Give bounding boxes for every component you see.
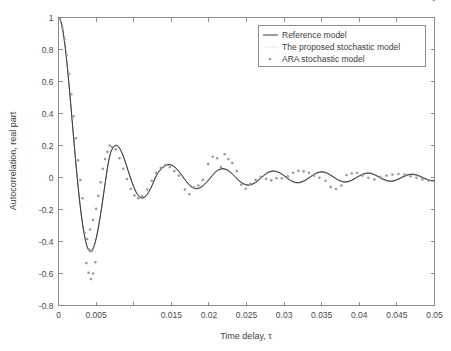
y-tick-label: 0.8 xyxy=(42,45,54,55)
data-point xyxy=(95,207,98,210)
data-point xyxy=(90,278,93,281)
data-point xyxy=(391,173,394,176)
data-point xyxy=(97,195,100,198)
data-point xyxy=(65,54,68,57)
y-tick-label: 1 xyxy=(49,13,54,23)
data-point xyxy=(231,162,234,165)
data-point xyxy=(281,177,284,180)
data-point xyxy=(141,195,144,198)
data-point xyxy=(184,188,187,191)
data-point xyxy=(85,262,88,265)
data-point xyxy=(70,93,73,96)
data-point xyxy=(292,171,295,174)
data-point xyxy=(178,174,181,177)
data-point xyxy=(270,179,273,182)
x-tick-label: 0.02 xyxy=(201,310,218,320)
data-point xyxy=(324,179,327,182)
data-point xyxy=(367,177,370,180)
data-point xyxy=(146,188,149,191)
data-point xyxy=(84,231,87,234)
data-point xyxy=(94,261,97,264)
data-point xyxy=(108,144,111,147)
legend-label-proposed-stochastic-model: The proposed stochastic model xyxy=(282,42,400,52)
y-tick-label: 0 xyxy=(49,173,54,183)
data-point xyxy=(150,179,153,182)
y-tick-label: -0.2 xyxy=(39,205,54,215)
data-point xyxy=(169,166,172,169)
data-point xyxy=(207,163,210,166)
legend-label-reference-model: Reference model xyxy=(282,30,347,40)
data-point xyxy=(188,193,191,196)
data-point xyxy=(340,184,343,187)
data-point xyxy=(68,73,71,76)
data-point xyxy=(249,183,252,186)
legend-marker-ara-stochastic-model xyxy=(269,58,272,61)
data-point xyxy=(240,183,243,186)
x-tick-label: 0.015 xyxy=(161,310,183,320)
data-point xyxy=(118,157,121,160)
data-point xyxy=(75,137,78,140)
data-point xyxy=(329,186,332,189)
data-point xyxy=(87,271,90,274)
data-point xyxy=(356,172,359,175)
data-point xyxy=(275,177,278,180)
x-tick-label: 0.05 xyxy=(426,310,443,320)
y-tick-label: -0.8 xyxy=(39,301,54,311)
data-point xyxy=(223,153,226,156)
data-point xyxy=(90,250,93,253)
chart-plot-area: 00.0050.0150.020.0250.030.0350.040.0450.… xyxy=(0,0,451,351)
data-point xyxy=(159,167,162,170)
data-point xyxy=(129,187,132,190)
data-point xyxy=(106,151,109,154)
data-point xyxy=(302,170,305,173)
data-point xyxy=(427,179,430,182)
y-tick-label: 0.4 xyxy=(42,109,54,119)
x-tick-label: 0.03 xyxy=(276,310,293,320)
data-point xyxy=(72,115,75,118)
data-point xyxy=(114,148,117,151)
x-axis-label: Time delay, τ xyxy=(220,331,272,341)
data-point xyxy=(244,187,247,190)
data-point xyxy=(297,169,300,172)
data-point xyxy=(397,173,400,176)
data-point xyxy=(104,158,107,161)
data-point xyxy=(92,272,95,275)
data-point xyxy=(137,197,140,200)
data-point xyxy=(111,146,114,149)
data-point xyxy=(79,179,82,182)
data-point xyxy=(409,175,412,178)
data-point xyxy=(287,175,290,178)
data-point xyxy=(227,158,230,161)
data-point xyxy=(421,178,424,181)
data-point xyxy=(313,174,316,177)
data-point xyxy=(99,181,102,184)
data-point xyxy=(373,178,376,181)
y-tick-label: -0.4 xyxy=(39,237,54,247)
data-point xyxy=(415,177,418,180)
data-point xyxy=(88,248,91,251)
data-point xyxy=(61,27,64,30)
data-point xyxy=(81,197,84,200)
data-point xyxy=(164,164,167,167)
data-point xyxy=(259,175,262,178)
data-point xyxy=(318,177,321,180)
data-point xyxy=(102,167,105,170)
data-point xyxy=(193,186,196,189)
data-point xyxy=(89,228,92,231)
data-point xyxy=(345,174,348,177)
data-point xyxy=(254,179,257,182)
data-point xyxy=(216,157,219,160)
data-point xyxy=(361,174,364,177)
x-tick-label: 0 xyxy=(56,310,61,320)
data-point xyxy=(92,219,95,222)
data-point xyxy=(122,167,125,170)
data-point xyxy=(133,194,136,197)
y-axis-label: Autocorrelation, real part xyxy=(8,111,18,210)
chart-figure: 00.0050.0150.020.0250.030.0350.040.0450.… xyxy=(0,0,451,351)
y-tick-label: 0.6 xyxy=(42,77,54,87)
data-point xyxy=(403,173,406,176)
data-point xyxy=(432,0,435,1)
data-point xyxy=(59,18,62,21)
data-point xyxy=(211,155,214,158)
x-tick-label: 0.045 xyxy=(386,310,408,320)
